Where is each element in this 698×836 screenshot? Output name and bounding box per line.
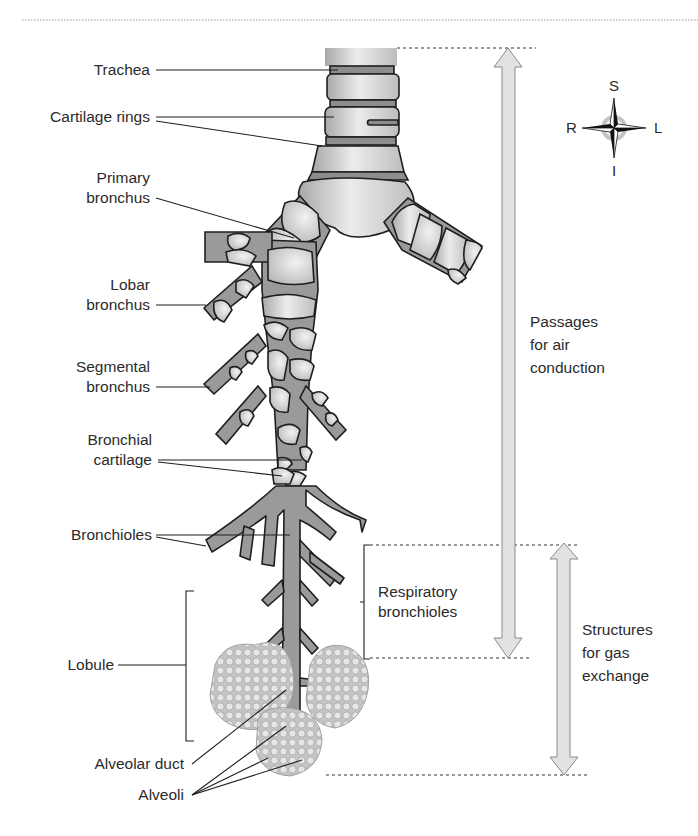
label-respiratory-bronchioles: Respiratory bronchioles [378,582,457,622]
bronchial-trunk [204,232,346,486]
label-lobar-bronchus: Lobar bronchus [86,275,150,315]
label-bronchioles: Bronchioles [71,525,152,545]
alveoli-clusters [210,643,369,776]
compass-right: R [566,119,577,136]
compass-left: L [654,119,662,136]
label-cartilage-rings: Cartilage rings [50,107,150,127]
gas-exchange-arrow [550,543,578,775]
respiratory-tree-diagram: Trachea Cartilage rings Primary bronchus… [0,0,698,836]
compass-icon [582,98,646,158]
label-primary-bronchus: Primary bronchus [86,168,150,208]
compass-inferior: I [612,162,616,179]
label-alveoli: Alveoli [138,785,184,805]
label-lobule: Lobule [67,655,114,675]
respiratory-bracket [360,545,370,659]
label-segmental-bronchus: Segmental bronchus [76,357,150,397]
air-conduction-arrow [494,48,522,658]
lobule-bracket [186,591,194,741]
compass-superior: S [609,77,619,94]
left-main-bronchus [384,198,482,284]
label-bronchial-cartilage: Bronchial cartilage [87,430,152,470]
label-gas-exchange-zone: Structures for gas exchange [582,618,653,687]
label-alveolar-duct: Alveolar duct [94,754,184,774]
label-air-conduction-zone: Passages for air conduction [530,310,605,379]
label-trachea: Trachea [94,60,150,80]
